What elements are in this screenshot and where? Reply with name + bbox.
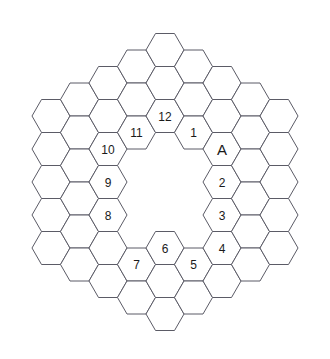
hexagon-ring-diagram: 109811712615A234: [0, 0, 330, 359]
hex-cell-group: 109811712615A234: [32, 34, 298, 331]
